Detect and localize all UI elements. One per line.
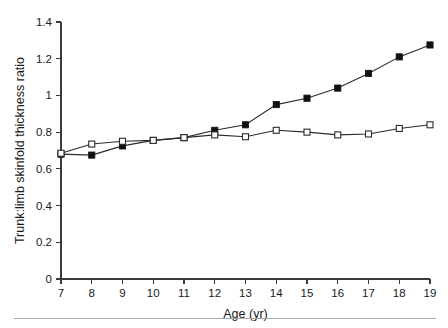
y-axis-tick-label: 0 (46, 273, 52, 285)
data-point-marker-open-squares (335, 132, 341, 138)
data-point-marker-filled-squares (335, 85, 341, 91)
x-axis-tick-label: 14 (270, 287, 283, 299)
line-chart-svg: 00.20.40.60.811.21.4 7891011121314151617… (0, 0, 448, 328)
x-axis-tick-label: 9 (119, 287, 125, 299)
data-point-marker-open-squares (273, 127, 279, 133)
x-axis-tick-label: 12 (208, 287, 221, 299)
data-point-marker-open-squares (212, 132, 218, 138)
y-axis-tick-label: 1.2 (36, 53, 52, 65)
data-series-layer (58, 42, 433, 158)
y-axis: 00.20.40.60.811.21.4 (36, 16, 61, 285)
data-point-marker-filled-squares (242, 122, 248, 128)
chart-figure: 00.20.40.60.811.21.4 7891011121314151617… (0, 0, 448, 328)
data-point-marker-open-squares (150, 137, 156, 143)
x-axis-tick-label: 7 (58, 287, 64, 299)
data-point-marker-open-squares (89, 141, 95, 147)
data-point-marker-filled-squares (304, 95, 310, 101)
y-axis-tick-label: 0.4 (36, 200, 53, 212)
x-axis-tick-label: 8 (89, 287, 95, 299)
data-point-marker-filled-squares (89, 152, 95, 158)
data-point-marker-filled-squares (365, 70, 371, 76)
y-axis-tick-label: 1.4 (36, 16, 53, 28)
y-axis-tick-label: 0.6 (36, 163, 52, 175)
x-axis: 78910111213141516171819 (58, 279, 437, 299)
data-point-marker-open-squares (396, 125, 402, 131)
x-axis-tick-label: 11 (178, 287, 190, 299)
data-point-marker-filled-squares (273, 102, 279, 108)
data-point-marker-open-squares (243, 134, 249, 140)
data-point-marker-filled-squares (427, 42, 433, 48)
y-axis-title: Trunk:limb skinfold thickness ratio (13, 57, 27, 244)
x-axis-tick-label: 19 (424, 287, 437, 299)
data-point-marker-open-squares (427, 122, 433, 128)
y-axis-tick-label: 1 (46, 89, 52, 101)
data-point-marker-open-squares (366, 131, 372, 137)
x-axis-tick-label: 10 (147, 287, 160, 299)
x-axis-tick-label: 17 (362, 287, 375, 299)
y-axis-tick-label: 0.8 (36, 126, 52, 138)
data-point-marker-open-squares (304, 129, 310, 135)
data-point-marker-open-squares (58, 150, 64, 156)
data-point-marker-open-squares (120, 138, 126, 144)
x-axis-tick-label: 16 (331, 287, 344, 299)
x-axis-tick-label: 18 (393, 287, 406, 299)
x-axis-tick-label: 13 (239, 287, 252, 299)
data-point-marker-filled-squares (396, 54, 402, 60)
data-point-marker-open-squares (181, 135, 187, 141)
y-axis-tick-label: 0.2 (36, 236, 52, 248)
x-axis-tick-label: 15 (301, 287, 314, 299)
